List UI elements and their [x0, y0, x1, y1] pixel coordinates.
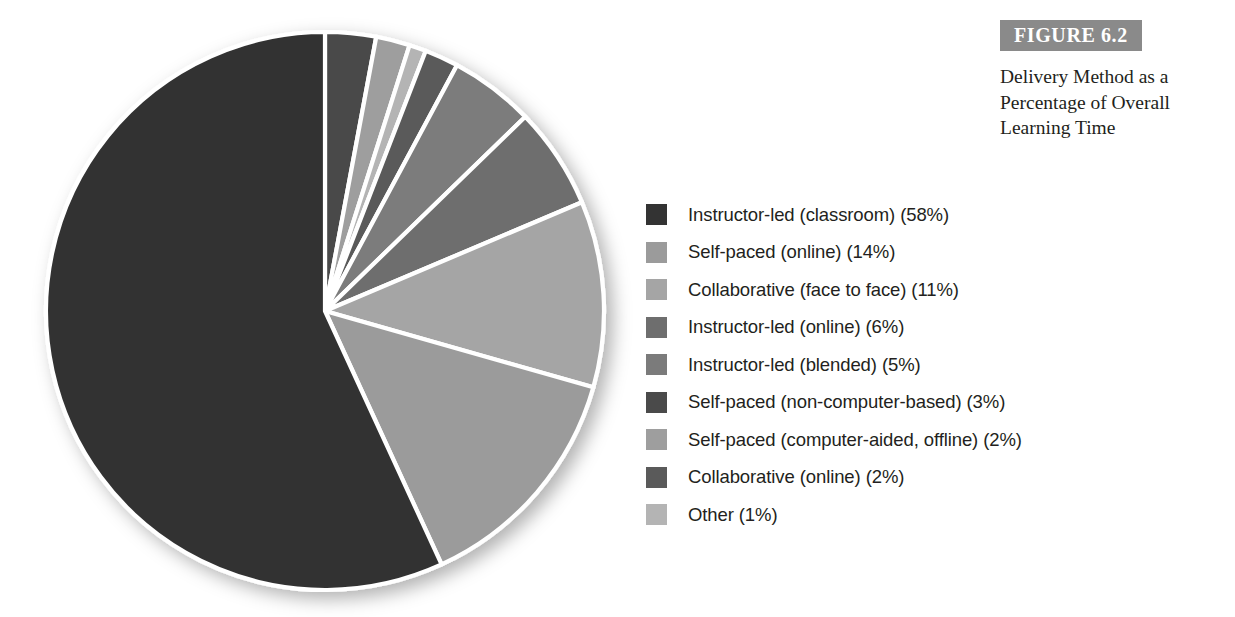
legend-item[interactable]: Self-paced (non-computer-based) (3%) [646, 384, 1226, 422]
legend-item[interactable]: Collaborative (online) (2%) [646, 459, 1226, 497]
legend-item-label: Instructor-led (blended) (5%) [688, 354, 921, 376]
legend-color-swatch [646, 242, 667, 263]
legend-item[interactable]: Instructor-led (blended) (5%) [646, 346, 1226, 384]
legend-item[interactable]: Instructor-led (online) (6%) [646, 309, 1226, 347]
legend-color-swatch [646, 354, 667, 375]
legend-color-swatch [646, 204, 667, 225]
legend-item-label: Other (1%) [688, 504, 777, 526]
chart-legend: Instructor-led (classroom) (58%)Self-pac… [646, 196, 1226, 534]
figure-block: FIGURE 6.2 Delivery Method as a Percenta… [1000, 20, 1225, 141]
legend-item-label: Instructor-led (online) (6%) [688, 316, 904, 338]
figure-page: FIGURE 6.2 Delivery Method as a Percenta… [0, 0, 1235, 617]
legend-item[interactable]: Self-paced (online) (14%) [646, 234, 1226, 272]
figure-number-badge: FIGURE 6.2 [1000, 20, 1142, 51]
legend-color-swatch [646, 429, 667, 450]
legend-item[interactable]: Other (1%) [646, 496, 1226, 534]
legend-item-label: Collaborative (face to face) (11%) [688, 279, 959, 301]
legend-color-swatch [646, 279, 667, 300]
figure-caption: Delivery Method as a Percentage of Overa… [1000, 64, 1225, 141]
legend-item-label: Collaborative (online) (2%) [688, 466, 904, 488]
legend-item-label: Self-paced (computer-aided, offline) (2%… [688, 429, 1022, 451]
pie-chart-svg [0, 0, 640, 617]
legend-item-label: Self-paced (online) (14%) [688, 241, 895, 263]
legend-item[interactable]: Collaborative (face to face) (11%) [646, 271, 1226, 309]
legend-item-label: Instructor-led (classroom) (58%) [688, 204, 949, 226]
legend-item[interactable]: Self-paced (computer-aided, offline) (2%… [646, 421, 1226, 459]
legend-color-swatch [646, 317, 667, 338]
legend-item[interactable]: Instructor-led (classroom) (58%) [646, 196, 1226, 234]
pie-chart [0, 0, 640, 617]
legend-color-swatch [646, 392, 667, 413]
legend-item-label: Self-paced (non-computer-based) (3%) [688, 391, 1005, 413]
legend-color-swatch [646, 467, 667, 488]
legend-color-swatch [646, 504, 667, 525]
pie-slice-group [46, 32, 604, 590]
